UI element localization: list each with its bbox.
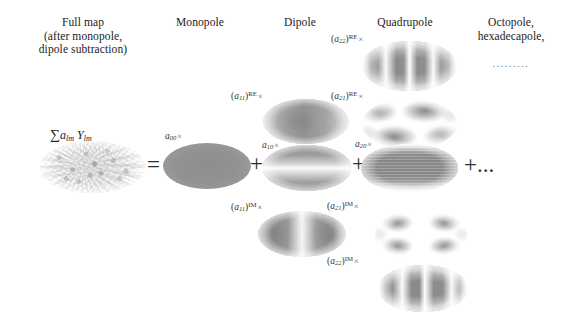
coefficient-a21-re-label: (a21)RE× bbox=[331, 90, 363, 101]
a22-im-subscript: 22 bbox=[335, 259, 342, 266]
dipole-a10-map bbox=[262, 145, 352, 191]
monopole-map bbox=[163, 143, 251, 189]
coefficient-a21-im-label: (a21)IM× bbox=[327, 200, 359, 211]
header-octopole: Octopole, hexadecapole, bbox=[455, 16, 567, 43]
a21-im-superscript: IM bbox=[345, 200, 353, 207]
quadrupole-a22-re-map bbox=[362, 41, 457, 91]
quadrupole-a20-map bbox=[361, 144, 458, 192]
header-quadrupole: Quadrupole bbox=[350, 16, 460, 30]
quadrupole-a21-re-map bbox=[362, 99, 457, 149]
coefficient-a00-label: a00× bbox=[165, 131, 182, 141]
dipole-a11-im-map bbox=[258, 211, 346, 257]
full-sky-anisotropy-map bbox=[40, 141, 145, 193]
header-octopole-ellipsis: ......... bbox=[455, 58, 567, 69]
a11-re-superscript: RE bbox=[248, 90, 257, 97]
a11-im-subscript: 11 bbox=[239, 205, 245, 212]
coefficient-a22-im-label: (a22)IM× bbox=[327, 255, 359, 266]
a21-im-times: × bbox=[354, 202, 359, 211]
a22-im-superscript: IM bbox=[345, 255, 353, 262]
figure-canvas: Full map (after monopole, dipole subtrac… bbox=[0, 0, 569, 321]
header-dipole: Dipole bbox=[250, 16, 350, 30]
quadrupole-a21-im-map bbox=[375, 210, 467, 259]
a22-im-times: × bbox=[354, 257, 359, 266]
header-monopole: Monopole bbox=[145, 16, 255, 30]
a21-re-superscript: RE bbox=[349, 90, 358, 97]
a22-re-subscript: 22 bbox=[339, 37, 346, 44]
a11-re-times: × bbox=[258, 92, 263, 101]
a00-subscript: 00 bbox=[170, 134, 177, 141]
quadrupole-a22-im-map bbox=[378, 265, 468, 312]
header-full-map: Full map (after monopole, dipole subtrac… bbox=[8, 16, 158, 57]
coefficient-a11-re-label: (a11)RE× bbox=[231, 90, 262, 101]
equals-sign: = bbox=[147, 153, 160, 176]
a21-im-subscript: 21 bbox=[335, 204, 342, 211]
a11-re-subscript: 11 bbox=[239, 94, 245, 101]
sigma-glyph: ∑ bbox=[50, 127, 60, 142]
coefficient-a22-re-label: (a22)RE× bbox=[331, 33, 363, 44]
a00-times: × bbox=[177, 132, 182, 141]
a21-re-subscript: 21 bbox=[339, 94, 346, 101]
a11-im-superscript: IM bbox=[248, 201, 256, 208]
sum-y-symbol: Y bbox=[77, 128, 84, 142]
a22-re-superscript: RE bbox=[349, 33, 358, 40]
plus-ellipsis-tail: +... bbox=[464, 153, 494, 176]
dipole-a11-re-map bbox=[263, 99, 349, 144]
